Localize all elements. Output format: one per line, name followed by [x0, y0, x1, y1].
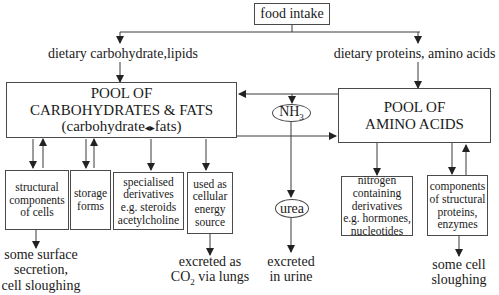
fats-text: fats): [155, 118, 182, 134]
structural-proteins-box: components of structural proteins, enzym…: [427, 175, 488, 236]
nh3-label: NH3: [279, 104, 304, 122]
co2-excretion-label: excreted as CO2 via lungs: [168, 254, 252, 288]
cell-sloughing-label: some cell sloughing: [428, 257, 490, 288]
energy-source-box: used as cellular energy source: [187, 172, 233, 234]
bidirectional-arrow-icon: ◂▸: [145, 122, 155, 133]
carb-pool-line1: POOL OF: [91, 85, 153, 102]
amino-pool-box: POOL OF AMINO ACIDS: [338, 88, 491, 143]
urea-label: urea: [280, 201, 304, 217]
left-input-label: dietary carbohydrate,lipids: [40, 46, 206, 61]
nitrogen-derivatives-box: nitrogen containing derivatives e.g. hor…: [341, 176, 413, 236]
urea-oval: urea: [275, 199, 309, 218]
food-intake-box: food intake: [254, 3, 330, 25]
carb-pool-line2: CARBOHYDRATES & FATS: [30, 102, 213, 119]
dietary-protein-text: dietary proteins, amino acids: [334, 46, 496, 61]
specialised-derivatives-box: specialised derivatives e.g. steroids ac…: [113, 172, 184, 230]
structural-components-box: structural components of cells: [5, 170, 69, 230]
nh3-oval: NH3: [272, 104, 311, 122]
amino-pool-line1: POOL OF: [384, 99, 446, 116]
carb-text: (carbohydrate: [62, 118, 145, 134]
amino-pool-line2: AMINO ACIDS: [365, 116, 464, 133]
carb-pool-box: POOL OF CARBOHYDRATES & FATS (carbohydra…: [6, 82, 237, 138]
dietary-carb-text: dietary carbohydrate,lipids: [48, 46, 198, 61]
storage-forms-box: storage forms: [70, 170, 111, 230]
food-intake-label: food intake: [260, 6, 323, 21]
surface-secretion-label: some surface secretion, cell sloughing: [0, 247, 82, 293]
urine-excretion-label: excreted in urine: [260, 254, 322, 285]
right-input-label: dietary proteins, amino acids: [330, 46, 499, 61]
carb-pool-line3: (carbohydrate◂▸fats): [62, 118, 182, 135]
